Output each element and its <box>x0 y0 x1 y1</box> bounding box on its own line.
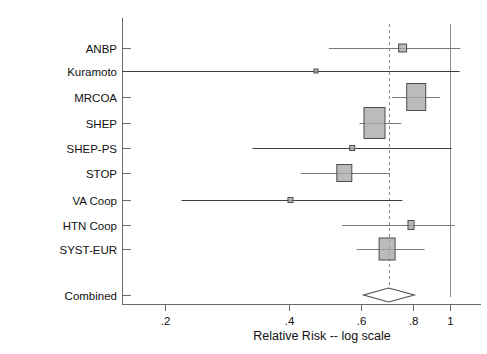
x-tick-label-1: .4 <box>285 315 295 327</box>
x-tick-label-4: 1 <box>447 315 453 327</box>
study-label-htn-coop: HTN Coop <box>63 220 117 232</box>
effect-marker-anbp <box>399 44 407 52</box>
effect-marker-shep-ps <box>350 146 355 151</box>
x-tick-label-0: .2 <box>161 315 171 327</box>
x-axis-title: Relative Risk -- log scale <box>253 329 391 343</box>
forest-plot: .2 .4 .6 .8 1 Relative Risk -- log scale… <box>0 0 487 354</box>
study-label-va-coop: VA Coop <box>72 195 117 207</box>
study-label-kuramoto: Kuramoto <box>67 66 117 78</box>
x-tick-label-3: .8 <box>409 315 419 327</box>
effect-marker-stop <box>337 165 352 182</box>
study-label-shep-ps: SHEP-PS <box>67 143 118 155</box>
effect-marker-shep <box>364 108 385 139</box>
study-label-mrcoa: MRCOA <box>74 92 117 104</box>
effect-marker-syst-eur <box>379 238 395 260</box>
study-label-syst-eur: SYST-EUR <box>59 244 117 256</box>
effect-marker-htn-coop <box>408 221 414 230</box>
study-label-shep: SHEP <box>86 118 118 130</box>
summary-label: Combined <box>65 290 117 302</box>
study-label-anbp: ANBP <box>86 43 118 55</box>
study-label-stop: STOP <box>86 168 117 180</box>
effect-marker-va-coop <box>288 198 293 203</box>
effect-marker-mrcoa <box>407 84 426 111</box>
effect-marker-kuramoto <box>314 69 318 73</box>
x-tick-label-2: .6 <box>357 315 367 327</box>
